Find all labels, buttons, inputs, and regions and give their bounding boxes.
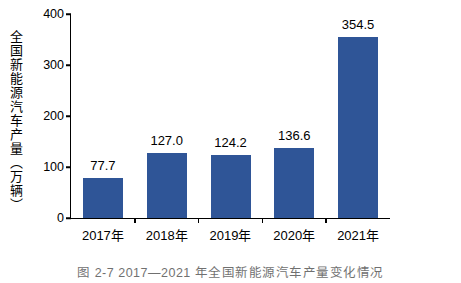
x-axis-tick-mark (262, 218, 264, 223)
x-axis-tick-label: 2017年 (82, 225, 124, 244)
bar-value-label: 354.5 (342, 17, 375, 32)
bar (147, 153, 187, 218)
figure-caption: 图 2-7 2017—2021 年全国新能源汽车产量变化情况 (0, 262, 461, 281)
bar-value-label: 136.6 (278, 128, 311, 143)
x-axis-tick-label: 2019年 (210, 225, 252, 244)
y-axis-tick-mark (66, 166, 71, 168)
y-axis-tick-mark (66, 115, 71, 117)
bar-value-label: 77.7 (90, 158, 115, 173)
bar (83, 178, 123, 218)
x-axis-tick-mark (134, 218, 136, 223)
y-axis-tick-mark (66, 217, 71, 219)
y-axis-title: 全国新能源汽车产量（万辆） (4, 6, 26, 236)
y-axis-tick-mark (66, 13, 71, 15)
x-axis-tick-label: 2020年 (273, 225, 315, 244)
x-axis-tick-mark (325, 218, 327, 223)
x-axis-tick-mark (198, 218, 200, 223)
bar (274, 148, 314, 218)
bar-value-label: 124.2 (214, 135, 247, 150)
chart-figure: 全国新能源汽车产量（万辆） 010020030040077.72017年127.… (0, 0, 461, 283)
x-axis-tick-label: 2018年 (146, 225, 188, 244)
bar-value-label: 127.0 (150, 133, 183, 148)
bar (338, 37, 378, 218)
y-axis-tick-mark (66, 64, 71, 66)
bar (211, 155, 251, 218)
plot-area: 010020030040077.72017年127.02018年124.2201… (70, 14, 390, 219)
x-axis-tick-label: 2021年 (337, 225, 379, 244)
